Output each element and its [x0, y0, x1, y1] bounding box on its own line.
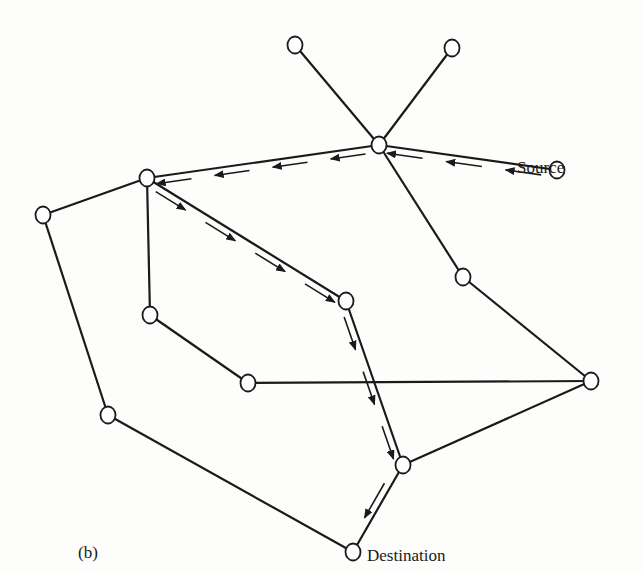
edge — [147, 145, 379, 178]
edge — [379, 145, 463, 277]
flow-arrow-icon — [331, 154, 366, 159]
edge — [108, 415, 353, 552]
source-label: Source — [517, 158, 564, 178]
flow-arrow-icon — [446, 162, 482, 167]
graph-svg — [0, 0, 643, 573]
node-far_right — [584, 373, 599, 390]
edge — [43, 178, 147, 215]
edge — [403, 381, 591, 465]
node-n1 — [288, 37, 303, 54]
node-far_left — [36, 207, 51, 224]
edge — [150, 315, 248, 383]
destination-label: Destination — [367, 546, 445, 566]
edge — [147, 178, 150, 315]
node-center — [339, 293, 354, 310]
flow-arrows — [156, 153, 541, 518]
edge — [248, 381, 591, 383]
edge — [463, 277, 591, 381]
flow-arrow-icon — [273, 162, 308, 167]
network-diagram: Source Destination (b) — [0, 0, 643, 573]
nodes — [36, 37, 599, 561]
node-n2 — [445, 40, 460, 57]
node-lower_mid — [241, 375, 256, 392]
flow-arrow-icon — [206, 222, 236, 240]
node-inner_left — [143, 307, 158, 324]
edge — [147, 178, 346, 301]
node-pre_dest — [396, 457, 411, 474]
node-lower_left — [101, 407, 116, 424]
node-right_mid — [456, 269, 471, 286]
figure-label: (b) — [78, 543, 98, 563]
node-destination — [346, 544, 361, 561]
flow-arrow-icon — [157, 179, 192, 184]
flow-arrow-icon — [255, 253, 285, 271]
edge — [379, 48, 452, 145]
flow-arrow-icon — [156, 192, 186, 210]
edges — [43, 45, 591, 552]
edge — [353, 465, 403, 552]
flow-arrow-icon — [215, 170, 250, 175]
edge — [43, 215, 108, 415]
node-hub — [372, 137, 387, 154]
flow-arrow-icon — [305, 284, 335, 302]
node-left_hub — [140, 170, 155, 187]
flow-arrow-icon — [387, 153, 423, 158]
edge — [295, 45, 379, 145]
